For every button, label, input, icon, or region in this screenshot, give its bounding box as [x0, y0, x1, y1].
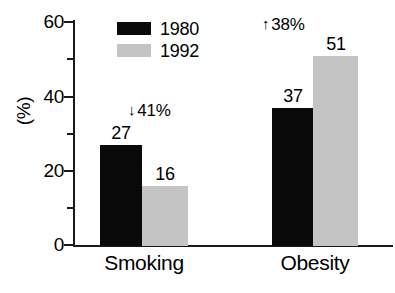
y-tick-minor-50	[67, 58, 74, 60]
y-tick-minor-30	[67, 133, 74, 135]
legend: 1980 1992	[117, 19, 199, 63]
legend-swatch-1992	[117, 44, 151, 57]
y-tick-20	[64, 170, 74, 172]
bar-smoking-1992	[142, 186, 188, 246]
annotation-obesity-text: 38%	[271, 15, 304, 34]
y-tick-60	[64, 21, 74, 23]
y-tick-minor-10	[67, 207, 74, 209]
legend-label-1980: 1980	[160, 20, 199, 38]
arrow-down-icon: ↓	[128, 101, 135, 119]
legend-item-1980: 1980	[117, 19, 199, 38]
y-tick-0	[64, 244, 74, 246]
y-tick-40	[64, 96, 74, 98]
bar-chart: 60 40 20 0 (%) 1980 1992 27 16 ↓41% Smok…	[0, 0, 395, 293]
annotation-smoking: ↓41%	[128, 101, 171, 120]
category-label-smoking: Smoking	[84, 251, 204, 275]
bar-value-smoking-1980: 27	[91, 124, 151, 142]
arrow-up-icon: ↑	[262, 15, 269, 33]
category-label-obesity: Obesity	[255, 251, 375, 275]
legend-swatch-1980	[117, 22, 151, 35]
y-tick-label-0: 0	[4, 235, 64, 254]
legend-label-1992: 1992	[160, 42, 199, 60]
y-tick-label-20: 20	[4, 161, 64, 180]
y-axis-title: (%)	[13, 81, 35, 141]
bar-value-obesity-1992: 51	[306, 35, 366, 53]
y-tick-label-60: 60	[4, 12, 64, 31]
annotation-obesity: ↑38%	[262, 15, 305, 34]
bar-value-smoking-1992: 16	[135, 165, 195, 183]
bar-smoking-1980	[100, 145, 142, 246]
legend-item-1992: 1992	[117, 41, 199, 60]
annotation-smoking-text: 41%	[137, 101, 170, 120]
bar-obesity-1980	[272, 108, 313, 246]
bar-obesity-1992	[313, 56, 358, 246]
